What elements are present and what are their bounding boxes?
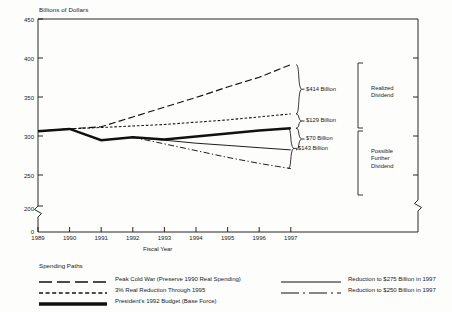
legend-swatch-thin-solid xyxy=(281,280,341,284)
legend-label-reduction-275: Reduction to $275 Billion in 1997 xyxy=(348,276,436,282)
legend-left-column: Peak Cold War (Preserve 1990 Real Spendi… xyxy=(39,276,254,309)
x-ticks xyxy=(38,227,291,232)
x-tick-label-1995: 1995 xyxy=(212,235,244,241)
plot-frame-top-right xyxy=(38,19,418,200)
legend-heading: Spending Paths xyxy=(39,262,83,269)
label-realized-dividend: Realized Dividend xyxy=(371,85,394,100)
callout-70-billion: $70 Billion xyxy=(306,135,333,142)
bracket-possible-further-dividend xyxy=(358,131,363,195)
chart-figure: Billions of Dollars 450 400 350 300 250 … xyxy=(0,0,452,312)
y-ticks-right xyxy=(413,58,418,175)
brace-129 xyxy=(296,114,305,128)
label-realized-dividend-line2: Dividend xyxy=(371,92,394,99)
legend-right-column: Reduction to $275 Billion in 1997 Reduct… xyxy=(281,276,452,298)
series-peak-cold-war xyxy=(38,65,291,132)
x-tick-label-1993: 1993 xyxy=(148,235,180,241)
legend-swatch-dotted xyxy=(39,291,107,295)
legend-label-reduction-250: Reduction to $250 Billion in 1997 xyxy=(348,287,436,293)
x-tick-label-1994: 1994 xyxy=(180,235,212,241)
series-reduction-250 xyxy=(38,129,291,169)
x-tick-label-1989: 1989 xyxy=(22,235,54,241)
plot-area xyxy=(0,0,452,260)
callout-143-billion: $143 Billion xyxy=(298,145,328,152)
brace-414 xyxy=(296,65,305,114)
series-presidents-1992-budget xyxy=(38,128,291,140)
brace-143 xyxy=(288,128,297,168)
series-3pct-real-reduction xyxy=(38,114,291,131)
x-axis-title: Fiscal Year xyxy=(143,246,172,252)
callout-129-billion: $129 Billion xyxy=(306,117,336,124)
x-tick-label-1997: 1997 xyxy=(275,235,307,241)
label-realized-dividend-line1: Realized xyxy=(371,85,394,92)
legend-swatch-thick-solid xyxy=(39,301,107,307)
legend-item-reduction-250[interactable]: Reduction to $250 Billion in 1997 xyxy=(281,287,452,298)
legend-label-3pct-reduction: 3% Real Reduction Through 1995 xyxy=(115,287,205,293)
x-tick-label-1990: 1990 xyxy=(54,235,86,241)
legend-item-reduction-275[interactable]: Reduction to $275 Billion in 1997 xyxy=(281,276,452,287)
callout-414-billion: $414 Billion xyxy=(306,86,336,93)
label-possible-further-dividend-line1: Possible xyxy=(371,148,394,155)
label-possible-further-dividend-line2: Further xyxy=(371,155,394,162)
label-possible-further-dividend: Possible Further Dividend xyxy=(371,148,394,170)
legend-swatch-dash-dot xyxy=(281,291,341,295)
x-tick-label-1991: 1991 xyxy=(85,235,117,241)
right-axis-break-zigzag xyxy=(415,200,422,232)
x-tick-label-1992: 1992 xyxy=(117,235,149,241)
legend-item-presidents-budget[interactable]: President's 1992 Budget (Base Force) xyxy=(39,298,254,309)
legend-item-peak-cold-war[interactable]: Peak Cold War (Preserve 1990 Real Spendi… xyxy=(39,276,254,287)
y-ticks xyxy=(38,19,43,206)
legend-item-3pct-reduction[interactable]: 3% Real Reduction Through 1995 xyxy=(39,287,254,298)
legend-label-peak-cold-war: Peak Cold War (Preserve 1990 Real Spendi… xyxy=(115,276,241,282)
legend-label-presidents-budget: President's 1992 Budget (Base Force) xyxy=(115,298,217,304)
label-possible-further-dividend-line3: Dividend xyxy=(371,163,394,170)
x-tick-label-1996: 1996 xyxy=(243,235,275,241)
legend-swatch-long-dash xyxy=(39,280,107,284)
bracket-realized-dividend xyxy=(358,63,363,128)
